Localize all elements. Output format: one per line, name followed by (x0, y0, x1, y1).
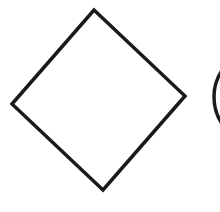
connector-circle[interactable] (214, 49, 220, 145)
decision-diamond[interactable] (12, 10, 185, 190)
diagram-canvas (0, 0, 220, 212)
